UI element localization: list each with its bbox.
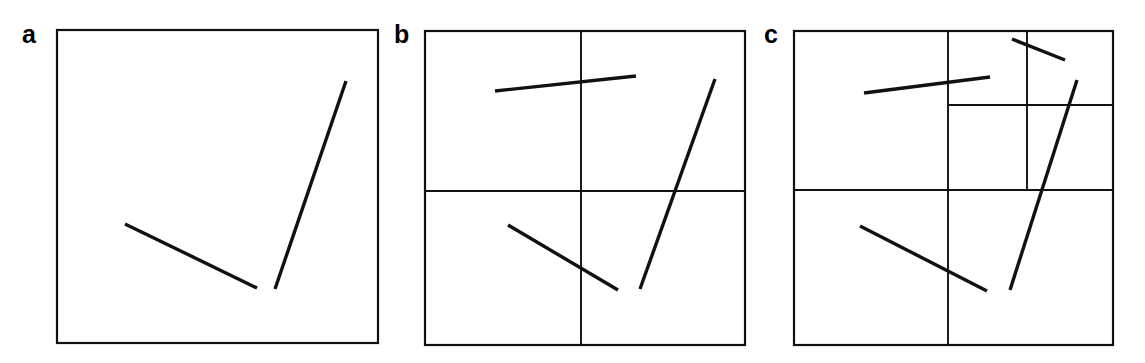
panel-c-drawing <box>0 0 1145 363</box>
figure-canvas: a b c <box>0 0 1145 363</box>
panel-c: c <box>0 0 1145 363</box>
panel-c-frame <box>794 31 1113 345</box>
